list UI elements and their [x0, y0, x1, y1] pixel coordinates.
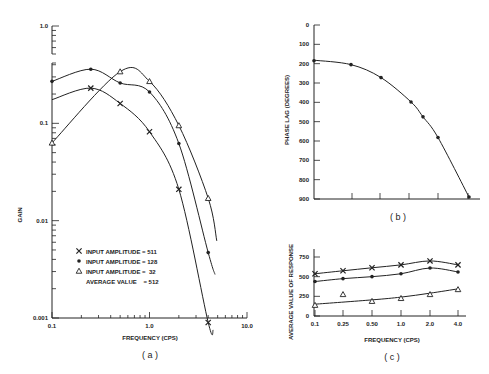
x-tick-label: 1.0 — [145, 323, 154, 329]
dot-marker — [89, 67, 93, 71]
x-marker — [176, 187, 181, 192]
x-tick-label: 0.25 — [337, 321, 349, 327]
dot-marker — [313, 280, 317, 284]
dot-marker — [148, 90, 152, 94]
panel-b-ylabel: PHASE LAG (DEGREES) — [284, 75, 290, 145]
y-tick-label: 300 — [299, 80, 310, 86]
panel-c-caption: ( c ) — [384, 352, 400, 362]
triangle-marker — [117, 69, 123, 74]
dot-marker — [177, 142, 181, 146]
panel-c-average-response-plot: 02505007500.10.250.501.02.04.0 — [299, 249, 466, 327]
dot-marker — [467, 195, 471, 199]
x-marker — [76, 248, 81, 253]
dot-marker — [370, 275, 374, 279]
series-curve-triangle — [315, 289, 458, 304]
legend-item-128: INPUT AMPLITUDE = 128 — [86, 259, 158, 265]
x-tick-label: 1.0 — [397, 321, 406, 327]
x-tick-label: 0.1 — [311, 321, 320, 327]
y-tick-label: 1.0 — [40, 23, 49, 29]
dot-marker — [436, 136, 440, 140]
panel-c-xlabel: FREQUENCY (CPS) — [364, 337, 420, 343]
legend-item-32: INPUT AMPLITUDE = 32 — [86, 269, 156, 275]
y-tick-label: 750 — [299, 254, 310, 260]
panel-b-caption: ( b ) — [390, 212, 406, 222]
dot-marker — [409, 100, 413, 104]
series-curve-dot — [315, 268, 458, 282]
triangle-marker — [427, 292, 433, 297]
triangle-marker — [369, 298, 375, 303]
series-curve-x — [52, 88, 213, 335]
phase-curve — [314, 60, 469, 197]
y-tick-label: 0.01 — [36, 218, 48, 224]
dot-marker — [206, 251, 210, 255]
y-tick-label: 700 — [299, 157, 310, 163]
series-curve-dot — [52, 69, 215, 274]
y-tick-label: 800 — [299, 177, 310, 183]
triangle-marker — [205, 195, 211, 200]
figure: 0.0010.010.11.00.11.010.0 01002003004005… — [0, 0, 489, 374]
panel-c-axes — [314, 249, 466, 316]
dot-marker — [312, 59, 316, 63]
y-tick-label: 250 — [299, 293, 310, 299]
triangle-marker — [398, 296, 404, 301]
triangle-marker — [76, 268, 82, 273]
dot-marker — [379, 76, 383, 80]
dot-marker — [421, 115, 425, 119]
panel-b-axes — [314, 25, 480, 199]
y-tick-label: 600 — [299, 138, 310, 144]
x-marker — [147, 129, 152, 134]
y-tick-label: 500 — [299, 274, 310, 280]
dot-marker — [428, 266, 432, 270]
y-tick-label: 100 — [299, 41, 310, 47]
panel-a-caption: ( a ) — [142, 350, 158, 360]
dot-marker — [399, 272, 403, 276]
triangle-marker — [340, 292, 346, 297]
x-tick-label: 10.0 — [241, 323, 253, 329]
dot-marker — [50, 80, 54, 84]
y-tick-label: 200 — [299, 61, 310, 67]
panel-b-phase-plot: 0100200300400500600700800900 — [299, 22, 480, 202]
triangle-marker — [176, 123, 182, 128]
x-tick-label: 4.0 — [454, 321, 463, 327]
dot-marker — [77, 259, 81, 263]
y-tick-label: 400 — [299, 99, 310, 105]
legend-item-511: INPUT AMPLITUDE = 511 — [86, 249, 158, 255]
dot-marker — [456, 270, 460, 274]
panel-a-gain-plot: 0.0010.010.11.00.11.010.0 — [33, 23, 254, 335]
series-curve-triangle — [52, 67, 217, 240]
dot-marker — [349, 63, 353, 67]
legend-item-average: AVERAGE VALUE = 512 — [86, 279, 159, 285]
y-tick-label: 900 — [299, 196, 310, 202]
x-tick-label: 0.50 — [366, 321, 378, 327]
y-tick-label: 0 — [306, 313, 310, 319]
dot-marker — [341, 277, 345, 281]
panel-a-ylabel: GAIN — [17, 208, 23, 223]
triangle-marker — [312, 302, 318, 307]
x-marker — [118, 101, 123, 106]
y-tick-label: 0.1 — [40, 120, 49, 126]
series-curve-x — [315, 261, 458, 274]
x-tick-label: 2.0 — [426, 321, 435, 327]
y-tick-label: 0 — [306, 22, 310, 28]
panel-a-xlabel: FREQUENCY (CPS) — [122, 335, 178, 341]
panel-c-ylabel: AVERAGE VALUE OF RESPONSE — [288, 244, 294, 340]
y-tick-label: 500 — [299, 119, 310, 125]
dot-marker — [118, 81, 122, 85]
y-tick-label: 0.001 — [33, 315, 49, 321]
x-tick-label: 0.1 — [48, 323, 57, 329]
